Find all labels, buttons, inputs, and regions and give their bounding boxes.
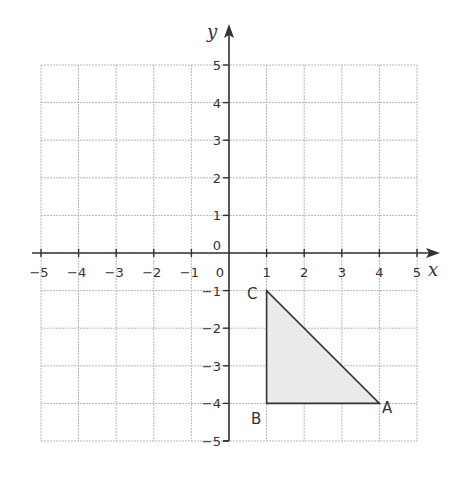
svg-text:3: 3 xyxy=(338,265,346,280)
svg-text:1: 1 xyxy=(262,265,270,280)
svg-text:−4: −4 xyxy=(202,396,221,411)
svg-text:−1: −1 xyxy=(180,265,199,280)
svg-text:0: 0 xyxy=(216,265,224,280)
vertex-label-b: B xyxy=(251,410,261,428)
svg-text:0: 0 xyxy=(213,238,221,253)
svg-text:5: 5 xyxy=(413,265,421,280)
svg-text:3: 3 xyxy=(213,133,221,148)
axes xyxy=(32,24,440,441)
svg-text:2: 2 xyxy=(213,171,221,186)
svg-text:−5: −5 xyxy=(29,265,48,280)
triangle-abc xyxy=(267,291,380,404)
vertex-label-c: C xyxy=(247,285,257,303)
svg-text:4: 4 xyxy=(213,96,221,111)
svg-text:−3: −3 xyxy=(202,359,221,374)
svg-text:−1: −1 xyxy=(202,284,221,299)
coordinate-grid: −5−4−3−2−1123450−5−4−3−2−1123450 y x C B… xyxy=(0,0,474,480)
svg-text:5: 5 xyxy=(213,58,221,73)
y-axis-label: y xyxy=(206,21,218,42)
svg-text:−5: −5 xyxy=(202,434,221,449)
svg-text:−4: −4 xyxy=(67,265,86,280)
svg-text:−3: −3 xyxy=(105,265,124,280)
vertex-label-a: A xyxy=(382,399,393,417)
svg-text:−2: −2 xyxy=(202,321,221,336)
svg-text:4: 4 xyxy=(375,265,383,280)
x-axis-label: x xyxy=(428,259,438,280)
svg-text:1: 1 xyxy=(213,208,221,223)
svg-text:−2: −2 xyxy=(142,265,161,280)
svg-text:2: 2 xyxy=(300,265,308,280)
